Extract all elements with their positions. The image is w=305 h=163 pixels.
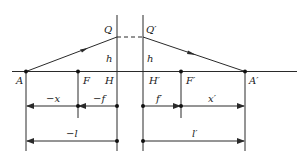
label-minus-x: −x — [46, 93, 60, 104]
label-h-left: h — [106, 53, 112, 64]
ray-arrow-icon — [187, 51, 196, 56]
label-H-prime: H′ — [148, 75, 161, 86]
label-F: F — [82, 75, 91, 86]
label-Q: Q — [104, 24, 112, 35]
dim-dot — [115, 139, 119, 143]
label-l-prime: l′ — [192, 128, 198, 139]
label-A: A — [15, 75, 23, 86]
label-minus-f: −f — [93, 93, 107, 104]
incident-ray — [26, 37, 117, 72]
label-minus-l: −l — [66, 128, 78, 139]
label-Q-prime: Q′ — [146, 24, 157, 35]
label-A-prime: A′ — [248, 75, 259, 86]
label-x-prime: x′ — [208, 93, 217, 104]
ray-arrow-icon — [80, 48, 88, 53]
dim-dot — [115, 104, 119, 108]
dim-dot — [179, 104, 183, 108]
label-F-prime: F′ — [185, 75, 196, 86]
label-H: H — [104, 75, 114, 86]
dim-dot — [76, 104, 80, 108]
dim-dot — [141, 139, 145, 143]
dim-dot — [141, 104, 145, 108]
label-h-right: h — [147, 53, 153, 64]
point-F-prime-dot — [179, 70, 183, 74]
point-A-prime-dot — [243, 70, 247, 74]
point-F-dot — [76, 70, 80, 74]
label-f-prime: f′ — [155, 93, 163, 104]
point-A-dot — [24, 70, 28, 74]
optics-diagram: Q Q′ h h A F H H′ F′ A′ −x −f f′ x′ −l l… — [0, 0, 305, 163]
